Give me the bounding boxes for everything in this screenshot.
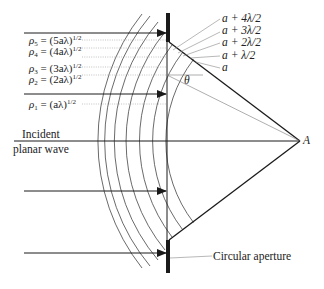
zone-radius-labels: ρ5 = (5aλ)1/2 ρ4 = (4aλ)1/2 ρ3 = (3aλ)1/… (28, 34, 82, 112)
aperture-leader (170, 256, 212, 258)
leader-a1 (190, 56, 220, 58)
right-leaders (173, 19, 220, 68)
label-rho1: ρ1 = (aλ)1/2 (28, 98, 76, 112)
label-a-plus-1: a + λ/2 (222, 49, 255, 61)
incident-label-line1: Incident (22, 128, 60, 140)
fresnel-zone-diagram: ρ5 = (5aλ)1/2 ρ4 = (4aλ)1/2 ρ3 = (3aλ)1/… (0, 0, 324, 289)
leader-a2 (183, 43, 220, 56)
aperture-label: Circular aperture (213, 250, 291, 263)
point-a-label: A (302, 134, 311, 146)
theta-label: θ (184, 74, 190, 86)
incident-label-line2: planar wave (13, 143, 69, 156)
label-a-plus-4: a + 4λ/2 (222, 12, 261, 24)
edge-ray-bottom (169, 141, 300, 240)
label-a-plus-3: a + 3λ/2 (222, 24, 261, 36)
path-length-labels: a + 4λ/2 a + 3λ/2 a + 2λ/2 a + λ/2 a (222, 12, 261, 73)
label-a-plus-2: a + 2λ/2 (222, 36, 261, 48)
label-a: a (222, 61, 228, 73)
